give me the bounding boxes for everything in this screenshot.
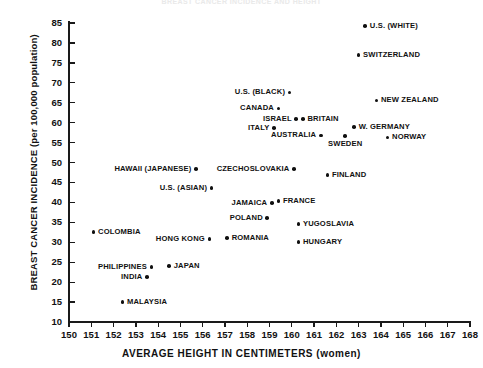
data-point [208,237,212,241]
y-tick-label: 70 [40,78,62,87]
data-point-label: FRANCE [283,197,316,205]
data-point [121,300,125,304]
x-tick-mark [269,322,270,327]
y-tick-label: 45 [40,177,62,186]
data-point [319,134,323,138]
x-tick-mark [425,322,426,327]
data-point-label: PHILIPPINES [98,263,147,271]
data-point [194,167,198,171]
scatter-plot-figure: BREAST CANCER INCIDENCE AND HEIGHT 10152… [0,0,483,368]
x-tick-mark [113,322,114,327]
data-point [297,222,301,226]
data-point-label: MALAYSIA [127,298,167,306]
y-tick-label: 20 [40,277,62,286]
data-point [363,24,367,28]
y-tick-label: 85 [40,18,62,27]
data-point-label: CANADA [240,104,274,112]
y-axis-title: BREAST CANCER INCIDENCE (per 100,000 pop… [28,41,39,291]
data-point [277,107,281,111]
data-point [386,136,390,140]
data-point-label: JAPAN [174,262,200,270]
data-point [301,117,305,121]
y-tick-label: 65 [40,98,62,107]
data-point [210,186,214,190]
y-tick-mark [70,142,75,143]
data-point-label: AUSTRALIA [271,131,316,139]
y-tick-label: 50 [40,158,62,167]
y-tick-label: 10 [40,317,62,326]
data-point-label: NORWAY [392,133,426,141]
data-point [343,134,347,138]
data-point-label: INDIA [121,273,142,281]
chart-title: BREAST CANCER INCIDENCE AND HEIGHT [0,0,483,5]
data-point [225,236,229,240]
data-point [292,167,296,171]
data-point-label: FINLAND [332,171,366,179]
y-tick-mark [70,162,75,163]
data-point [352,125,356,129]
y-tick-mark [70,222,75,223]
data-point-label: ROMANIA [232,234,269,242]
x-tick-mark [158,322,159,327]
x-tick-mark [91,322,92,327]
y-tick-mark [70,282,75,283]
data-point [92,230,96,234]
y-tick-label: 35 [40,217,62,226]
y-tick-mark [70,182,75,183]
y-tick-mark [70,202,75,203]
y-tick-label: 55 [40,138,62,147]
data-point-label: SWITZERLAND [363,51,420,59]
data-point-label: U.S. (WHITE) [370,22,418,30]
data-point-label: NEW ZEALAND [381,96,439,104]
data-point [294,117,298,121]
data-point [150,265,154,269]
data-point [288,91,292,95]
y-tick-label: 80 [40,38,62,47]
y-tick-label: 25 [40,257,62,266]
data-point-label: U.S. (ASIAN) [160,184,207,192]
data-point [277,199,281,203]
x-tick-mark [358,322,359,327]
data-point [145,275,149,279]
x-tick-mark [224,322,225,327]
x-tick-mark [291,322,292,327]
data-point [326,173,330,177]
y-tick-mark [70,102,75,103]
x-tick-mark [247,322,248,327]
y-tick-mark [70,301,75,302]
data-point-label: U.S. (BLACK) [235,88,285,96]
data-point-label: SWEDEN [285,140,405,148]
data-point [357,53,361,57]
data-point-label: HUNGARY [303,238,342,246]
y-tick-label: 75 [40,58,62,67]
y-tick-mark [70,82,75,83]
y-tick-mark [70,242,75,243]
x-axis-title: AVERAGE HEIGHT IN CENTIMETERS (women) [0,348,483,359]
data-point-label: HAWAII (JAPANESE) [114,165,191,173]
data-point-label: ITALY [248,124,269,132]
y-tick-mark [70,42,75,43]
data-point-label: JAMAICA [232,199,268,207]
data-point-label: POLAND [230,214,263,222]
x-tick-mark [313,322,314,327]
data-point [270,201,274,205]
x-tick-mark [135,322,136,327]
data-point-label: W. GERMANY [359,123,410,131]
x-tick-label: 168 [457,330,483,340]
y-tick-mark [70,262,75,263]
y-tick-label: 30 [40,237,62,246]
y-tick-label: 15 [40,297,62,306]
data-point-label: YUGOSLAVIA [303,220,354,228]
data-point-label: BRITAIN [307,115,338,123]
y-tick-label: 60 [40,118,62,127]
data-point-label: COLOMBIA [98,228,141,236]
data-point [265,216,269,220]
y-tick-mark [70,122,75,123]
data-point-label: ISRAEL [263,115,292,123]
data-point [375,99,379,103]
x-tick-mark [180,322,181,327]
y-tick-mark [70,62,75,63]
x-tick-mark [336,322,337,327]
x-tick-mark [202,322,203,327]
y-tick-mark [70,321,75,322]
